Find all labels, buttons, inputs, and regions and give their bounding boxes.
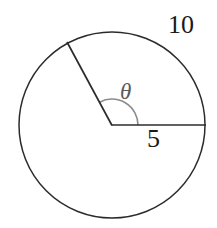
geometry-figure: 10 5 θ	[0, 0, 217, 228]
radius-upper-left-line	[67, 42, 112, 126]
radius-length-label: 5	[147, 126, 160, 152]
arc-length-label: 10	[168, 12, 194, 38]
theta-angle-label: θ	[120, 80, 131, 103]
